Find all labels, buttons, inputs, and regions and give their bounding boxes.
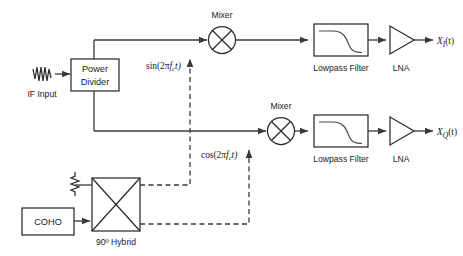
iq-demodulator-diagram: IF Input Power Divider Mixer Mixer sin(2…	[0, 0, 463, 256]
lna-q-symbol	[390, 117, 414, 145]
coho-block	[22, 208, 74, 235]
resistor-termination-icon	[71, 172, 92, 196]
mixer-i-symbol	[209, 27, 236, 54]
sine-waveform-icon	[33, 67, 51, 81]
mixer-q-symbol	[268, 118, 295, 145]
power-divider-block	[71, 59, 119, 91]
wire-lo-cos-to-mixer-q	[140, 150, 249, 224]
lowpass-filter-i-block	[314, 24, 368, 56]
lna-i-symbol	[390, 26, 414, 54]
wire-lo-sin-to-mixer-i	[140, 59, 190, 185]
diagram-canvas	[0, 0, 463, 256]
lowpass-filter-q-block	[314, 115, 368, 147]
